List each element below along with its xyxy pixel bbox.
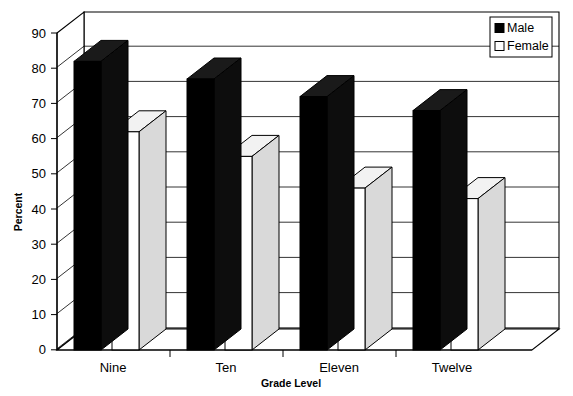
y-tick-0: 0 (39, 342, 46, 357)
bar-chart: 90 80 70 60 50 40 30 20 10 0 Percent (0, 0, 573, 396)
y-tick-10: 10 (32, 307, 46, 322)
x-tick-twelve: Twelve (432, 360, 472, 375)
y-tick-20: 20 (32, 272, 46, 287)
y-tick-70: 70 (32, 96, 46, 111)
legend-swatch-female-icon (495, 42, 504, 51)
legend-label-male: Male (507, 21, 534, 35)
y-axis-title: Percent (12, 192, 24, 231)
bar-male-nine (74, 40, 128, 350)
x-axis-title: Grade Level (261, 377, 321, 389)
legend-item-female[interactable]: Female (495, 39, 549, 53)
bar-male-ten (187, 58, 241, 350)
legend-item-male[interactable]: Male (495, 21, 534, 35)
legend-swatch-male-icon (495, 24, 504, 33)
bar-male-twelve (413, 90, 467, 350)
y-tick-90: 90 (32, 26, 46, 41)
bar-male-eleven (300, 76, 354, 350)
y-tick-80: 80 (32, 61, 46, 76)
y-tick-30: 30 (32, 237, 46, 252)
x-tick-nine: Nine (100, 360, 127, 375)
y-tick-50: 50 (32, 166, 46, 181)
chart-canvas: 90 80 70 60 50 40 30 20 10 0 Percent (0, 0, 573, 396)
y-tick-40: 40 (32, 202, 46, 217)
legend-label-female: Female (507, 39, 549, 53)
y-tick-60: 60 (32, 131, 46, 146)
x-tick-eleven: Eleven (319, 360, 359, 375)
chart-legend: Male Female (490, 17, 552, 57)
x-tick-ten: Ten (216, 360, 237, 375)
